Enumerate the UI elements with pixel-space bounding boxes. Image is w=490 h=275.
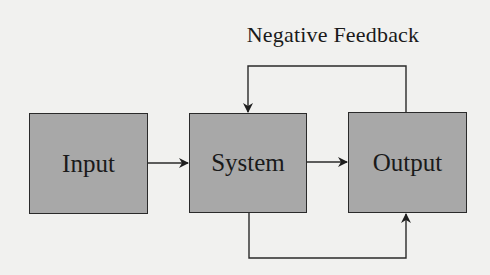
arrow-feedback-top bbox=[248, 66, 406, 112]
feedback-label: Negative Feedback bbox=[226, 22, 440, 48]
system-label: System bbox=[211, 149, 285, 177]
output-label: Output bbox=[373, 149, 442, 177]
diagram-canvas: Negative Feedback Input System Output bbox=[0, 0, 490, 275]
output-box: Output bbox=[348, 112, 467, 213]
input-box: Input bbox=[29, 113, 148, 214]
arrow-bottom-loop bbox=[249, 213, 406, 258]
input-label: Input bbox=[62, 150, 115, 178]
system-box: System bbox=[189, 113, 307, 213]
